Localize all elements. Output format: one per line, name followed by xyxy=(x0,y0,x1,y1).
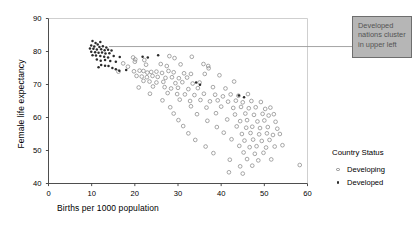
x-tick-label: 30 xyxy=(167,189,189,198)
x-tick-label: 10 xyxy=(81,189,103,198)
chart-legend: Country Status DevelopingDeveloped xyxy=(332,148,385,189)
x-axis-title: Births per 1000 population xyxy=(57,203,159,213)
y-tick-label: 70 xyxy=(20,80,42,89)
series-developed-points xyxy=(89,40,246,99)
y-tick-label: 60 xyxy=(20,113,42,122)
x-tick-label: 0 xyxy=(38,189,60,198)
legend-entry-developed[interactable]: Developed xyxy=(332,176,385,189)
legend-entry-developing[interactable]: Developing xyxy=(332,163,385,176)
legend-entry-label: Developed xyxy=(347,178,383,187)
legend-title: Country Status xyxy=(332,148,385,157)
y-tick-label: 80 xyxy=(20,47,42,56)
y-tick-label: 90 xyxy=(20,14,42,23)
callout-line-3: in upper left xyxy=(358,40,407,49)
x-tick-label: 60 xyxy=(297,189,319,198)
x-tick-label: 20 xyxy=(124,189,146,198)
scatter-chart-figure: Female life expectancy Births per 1000 p… xyxy=(0,0,418,234)
y-tick-label: 40 xyxy=(20,179,42,188)
x-tick-label: 40 xyxy=(210,189,232,198)
marker-glyph xyxy=(336,168,340,172)
marker-glyph xyxy=(337,181,340,184)
series-developing-points xyxy=(117,54,302,175)
x-tick-label: 50 xyxy=(253,189,275,198)
y-tick-label: 50 xyxy=(20,146,42,155)
callout-line-1: Developed xyxy=(358,21,407,30)
filled-dot-marker-icon xyxy=(332,181,344,184)
annotation-callout-box: Developed nations cluster in upper left xyxy=(352,16,412,58)
callout-line-2: nations cluster xyxy=(358,30,407,39)
legend-entries: DevelopingDeveloped xyxy=(332,163,385,189)
legend-entry-label: Developing xyxy=(347,165,385,174)
open-circle-marker-icon xyxy=(332,168,344,172)
axis-ticks xyxy=(46,19,308,187)
